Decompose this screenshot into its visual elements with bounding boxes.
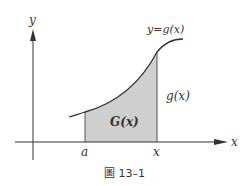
tick-label-x: x [153, 145, 160, 159]
area-label: G(x) [110, 115, 139, 129]
integral-diagram: y x y=g(x) g(x) G(x) a x 圖 13–1 [0, 0, 249, 186]
tick-label-a: a [81, 145, 88, 159]
x-axis-arrow-icon [214, 139, 228, 145]
x-axis-label: x [231, 135, 238, 149]
y-axis-label: y [28, 13, 36, 27]
height-label: g(x) [166, 89, 190, 103]
y-axis-arrow-icon [30, 29, 36, 41]
curve-label: y=g(x) [146, 23, 184, 36]
figure-caption: 圖 13–1 [0, 164, 249, 180]
